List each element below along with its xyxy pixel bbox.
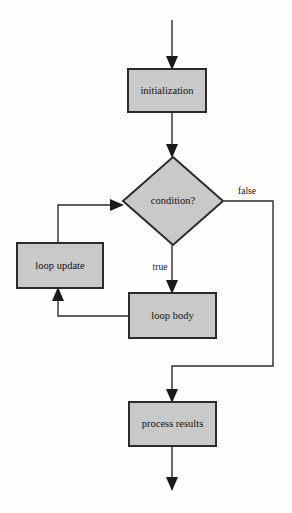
edge-condition-true-to-loop-body: true xyxy=(153,245,178,294)
edge-label-true: true xyxy=(153,262,168,272)
arrowhead-down-exit xyxy=(166,477,178,491)
node-initialization[interactable]: initialization xyxy=(128,69,206,112)
arrowhead-down-entry xyxy=(166,56,178,70)
arrowhead-down-init-condition xyxy=(166,144,178,158)
arrowhead-down-true xyxy=(166,280,178,294)
node-process-results[interactable]: process results xyxy=(129,402,216,446)
arrowhead-down-false xyxy=(166,389,178,403)
edge-process-results-to-exit xyxy=(166,446,178,491)
node-initialization-label: initialization xyxy=(140,85,194,96)
edge-initialization-to-condition xyxy=(166,112,178,158)
node-loop-update[interactable]: loop update xyxy=(17,243,103,288)
node-loop-update-label: loop update xyxy=(35,260,85,271)
node-loop-body-label: loop body xyxy=(151,310,194,321)
edge-update-condition-line xyxy=(58,205,117,243)
edge-body-update-line xyxy=(58,294,129,316)
node-process-results-label: process results xyxy=(142,418,204,429)
arrowhead-up-loop-update xyxy=(52,287,64,301)
edge-loop-body-to-loop-update xyxy=(52,287,129,316)
edge-entry-to-initialization xyxy=(166,20,178,70)
node-loop-body[interactable]: loop body xyxy=(129,293,216,338)
edge-loop-update-to-condition xyxy=(58,199,124,243)
edge-label-false: false xyxy=(238,186,256,196)
flowchart-canvas: true false xyxy=(0,0,292,513)
node-layer: initialization condition? loop update lo… xyxy=(17,69,223,446)
node-condition[interactable]: condition? xyxy=(123,157,223,245)
node-condition-label: condition? xyxy=(151,195,196,206)
flowchart-svg: true false xyxy=(0,0,292,513)
